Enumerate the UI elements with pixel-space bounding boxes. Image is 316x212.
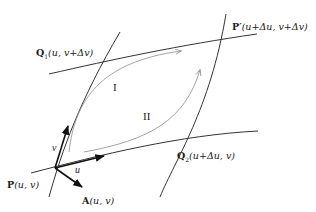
vector-label-u: u — [75, 165, 80, 175]
region-label-I: I — [113, 82, 117, 93]
point-label-Q2: Q2(u+Δu, v) — [177, 151, 235, 163]
region-label-II: II — [143, 111, 150, 122]
point-label-Q1: Q1(u, v+Δv) — [36, 48, 93, 60]
vector-label-A: A(u, v) — [82, 196, 114, 206]
vector-v-arrow — [55, 126, 68, 168]
curve-u-const-right — [160, 14, 226, 197]
point-label-P: P(u, v) — [7, 180, 39, 190]
point-label-P-prime: P′(u+Δu, v+Δv) — [232, 22, 308, 32]
surface-patch-diagram: Q1(u, v+Δv) P′(u+Δu, v+Δv) Q2(u+Δu, v) P… — [0, 0, 316, 212]
vector-label-v: v — [52, 143, 56, 153]
